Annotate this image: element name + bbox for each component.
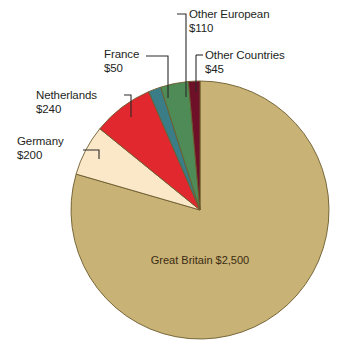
pie-chart-svg: [0, 0, 339, 353]
slice-label-great-britain: Great Britain $2,500: [140, 254, 260, 268]
slice-label-france: France $50: [104, 48, 139, 75]
slice-label-great-britain-value: $2,500: [216, 254, 250, 266]
slice-label-germany: Germany $200: [17, 135, 64, 162]
slice-label-other-countries-value: $45: [205, 63, 285, 77]
slice-label-other-european-value: $110: [189, 22, 269, 36]
slice-label-germany-value: $200: [17, 149, 64, 163]
slice-label-other-countries-name: Other Countries: [205, 49, 285, 61]
slice-label-netherlands: Netherlands $240: [36, 89, 97, 116]
slice-label-netherlands-value: $240: [36, 103, 97, 117]
slice-label-france-name: France: [104, 48, 139, 60]
slice-label-germany-name: Germany: [17, 135, 64, 147]
slice-label-france-value: $50: [104, 62, 139, 76]
pie-slices-group: [71, 81, 329, 339]
slice-label-other-european: Other European $110: [189, 8, 269, 35]
slice-label-great-britain-name: Great Britain: [151, 254, 213, 266]
pie-chart: Other European $110 Other Countries $45 …: [0, 0, 339, 353]
slice-label-other-countries: Other Countries $45: [205, 49, 285, 76]
slice-label-other-european-name: Other European: [189, 8, 269, 20]
slice-label-netherlands-name: Netherlands: [36, 89, 97, 101]
